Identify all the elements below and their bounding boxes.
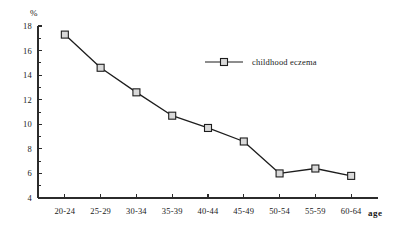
data-point-marker bbox=[276, 170, 283, 177]
legend-marker-square bbox=[221, 59, 228, 66]
x-tick-label: 55-59 bbox=[295, 206, 335, 216]
x-tick-label: 40-44 bbox=[188, 206, 228, 216]
y-tick-label: 6 bbox=[16, 168, 32, 178]
data-point-marker bbox=[97, 64, 104, 71]
y-tick-label: 12 bbox=[16, 95, 32, 105]
data-point-marker bbox=[312, 165, 319, 172]
x-tick-label: 45-49 bbox=[224, 206, 264, 216]
data-point-marker bbox=[240, 138, 247, 145]
legend-sample bbox=[205, 59, 243, 66]
legend-label-childhood-eczema: childhood eczema bbox=[252, 57, 317, 67]
y-axis-ticks bbox=[38, 26, 42, 198]
x-tick-label: 35-39 bbox=[152, 206, 192, 216]
x-tick-label: 30-34 bbox=[116, 206, 156, 216]
x-tick-label: 25-29 bbox=[81, 206, 121, 216]
y-tick-label: 4 bbox=[16, 193, 32, 203]
chart-axes bbox=[38, 26, 378, 198]
data-point-marker bbox=[61, 31, 68, 38]
y-tick-label: 16 bbox=[16, 46, 32, 56]
y-tick-label: 10 bbox=[16, 119, 32, 129]
series-markers bbox=[61, 31, 354, 179]
x-tick-label: 60-64 bbox=[331, 206, 371, 216]
data-point-marker bbox=[169, 112, 176, 119]
x-tick-label: 20-24 bbox=[45, 206, 85, 216]
data-point-marker bbox=[205, 124, 212, 131]
y-tick-label: 18 bbox=[16, 21, 32, 31]
chart-container: % age childhood eczema 4681012141618 20-… bbox=[0, 0, 400, 230]
x-axis-ticks bbox=[65, 194, 351, 198]
series-line-childhood-eczema bbox=[65, 35, 351, 176]
y-tick-label: 8 bbox=[16, 144, 32, 154]
y-axis-unit-label: % bbox=[30, 8, 38, 18]
data-point-marker bbox=[348, 172, 355, 179]
y-tick-label: 14 bbox=[16, 70, 32, 80]
chart-plot-area bbox=[0, 0, 400, 230]
x-tick-label: 50-54 bbox=[260, 206, 300, 216]
data-point-marker bbox=[133, 89, 140, 96]
